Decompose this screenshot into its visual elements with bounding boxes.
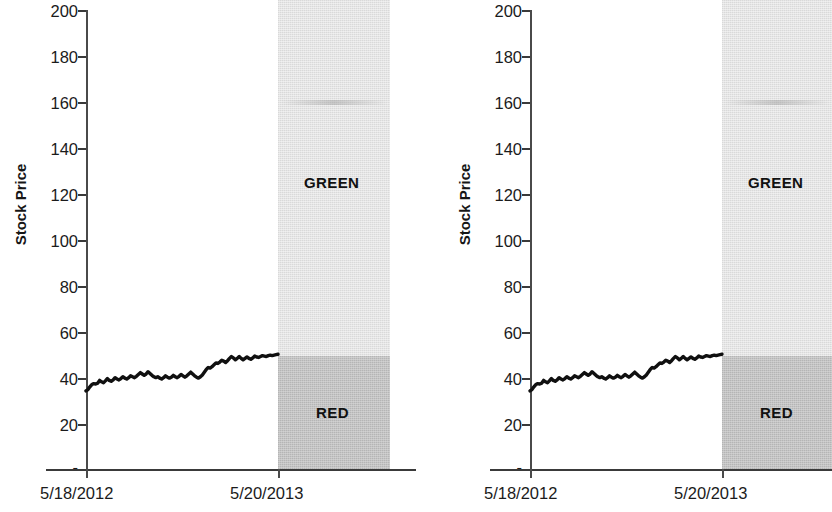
- stock-price-line-right: [416, 0, 832, 512]
- left-chart-panel: GREEN RED Stock Price 200 180 160 140 12…: [0, 0, 416, 512]
- right-chart-panel: GREEN RED Stock Price 200 180 160 140 12…: [416, 0, 832, 512]
- stock-price-figure: GREEN RED Stock Price 200 180 160 140 12…: [0, 0, 832, 512]
- stock-price-line-left: [0, 0, 416, 512]
